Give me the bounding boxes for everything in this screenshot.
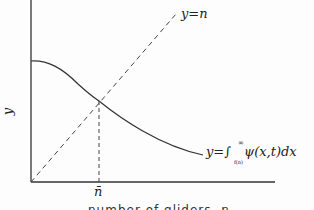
curve-label-upper-limit: ∞	[238, 139, 244, 147]
curve-label-prefix: y=∫	[206, 144, 231, 159]
plot-area	[0, 0, 314, 210]
chart: y=n y=∫ ∞ f(n) ψ(x,t)dx y n̄ number of g…	[0, 0, 314, 210]
curve-label-lower-limit: f(n)	[234, 159, 243, 165]
line-y-equals-n	[31, 14, 176, 182]
y-axis-label: y	[0, 108, 15, 115]
nbar-tick-label: n̄	[94, 184, 102, 199]
curve-integral	[31, 61, 203, 155]
x-axis-label: number of gliders, n	[88, 203, 230, 210]
curve-label-suffix: ψ(x,t)dx	[244, 144, 297, 159]
line-label: y=n	[181, 6, 208, 21]
